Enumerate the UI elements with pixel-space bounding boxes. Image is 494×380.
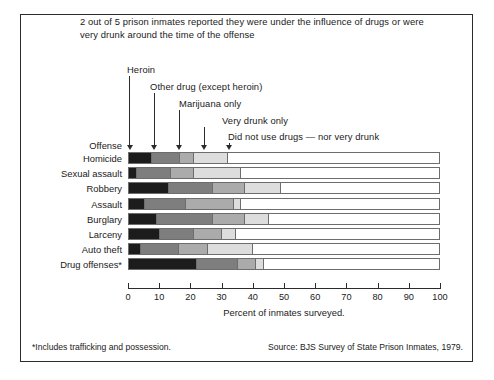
bar-row (128, 258, 440, 270)
bar-segment (180, 153, 194, 163)
callout-label-1: Heroin (127, 64, 155, 75)
category-label-homicide: Homicide (83, 153, 122, 164)
bar-segment (194, 153, 228, 163)
bar-segment (194, 229, 222, 239)
bar-segment (152, 153, 180, 163)
bar-segment (222, 229, 236, 239)
bar-segment (281, 183, 439, 193)
x-tick (128, 283, 129, 289)
bar-segment (129, 153, 152, 163)
x-tick (346, 283, 347, 289)
bar-segment (228, 153, 439, 163)
bar-segment (264, 259, 439, 269)
callout-arrowhead-2 (151, 145, 157, 150)
callout-label-4: Very drunk only (222, 115, 288, 126)
x-tick-label: 60 (310, 292, 320, 302)
category-label-robbery: Robbery (87, 183, 122, 194)
bar-segment (169, 183, 212, 193)
x-tick (222, 283, 223, 289)
x-tick-label: 10 (154, 292, 164, 302)
footnote-text: *Includes trafficking and possession. (32, 342, 171, 352)
x-tick-label: 40 (248, 292, 258, 302)
source-text: Source: BJS Survey of State Prison Inmat… (268, 342, 463, 352)
bar-segment (245, 183, 281, 193)
x-tick (159, 283, 160, 289)
bar-segment (245, 214, 268, 224)
category-label-sexual-assault: Sexual assault (61, 168, 122, 179)
callout-arrowhead-4 (201, 145, 207, 150)
bar-segment (194, 168, 241, 178)
bar-segment (179, 244, 208, 254)
callout-label-5: Did not use drugs — nor very drunk (228, 131, 379, 142)
x-tick (409, 283, 410, 289)
bar-segment (129, 259, 197, 269)
x-tick-label: 90 (404, 292, 414, 302)
category-label-assault: Assault (91, 199, 122, 210)
x-tick (378, 283, 379, 289)
bar-segment (145, 199, 187, 209)
x-tick-label: 80 (372, 292, 382, 302)
bar-segment (241, 199, 439, 209)
category-label-burglary: Burglary (87, 214, 122, 225)
callout-label-2: Other drug (except heroin) (150, 81, 262, 92)
bar-row (128, 228, 440, 240)
bar-row (128, 198, 440, 210)
x-axis-title: Percent of inmates surveyed. (128, 307, 440, 318)
x-tick (284, 283, 285, 289)
category-label-drug-offenses: Drug offenses* (60, 259, 122, 270)
chart-headline: 2 out of 5 prison inmates reported they … (80, 16, 430, 41)
x-tick-label: 100 (432, 292, 447, 302)
x-tick-label: 20 (185, 292, 195, 302)
bar-segment (253, 244, 439, 254)
bar-row (128, 167, 440, 179)
stacked-bar-plot (128, 152, 440, 284)
x-tick (253, 283, 254, 289)
x-tick-label: 50 (279, 292, 289, 302)
bar-segment (129, 229, 160, 239)
callout-arrowhead-5 (226, 145, 232, 150)
bar-segment (129, 214, 157, 224)
x-tick (440, 283, 441, 289)
bar-segment (197, 259, 237, 269)
callout-leader-line-2 (154, 93, 155, 145)
bar-segment (238, 259, 257, 269)
bar-segment (129, 199, 145, 209)
callout-leader-line-4 (204, 127, 205, 145)
bar-segment (129, 168, 137, 178)
bar-row (128, 182, 440, 194)
bar-segment (171, 168, 194, 178)
category-label-auto-theft: Auto theft (82, 244, 122, 255)
bar-segment (213, 183, 246, 193)
x-tick (315, 283, 316, 289)
callout-arrowhead-3 (176, 145, 182, 150)
bar-segment (160, 229, 194, 239)
bar-segment (256, 259, 264, 269)
bar-segment (236, 229, 439, 239)
callout-arrowhead-1 (127, 145, 133, 150)
x-tick-label: 0 (125, 292, 130, 302)
callout-label-3: Marijuana only (179, 98, 241, 109)
chart-page: 2 out of 5 prison inmates reported they … (0, 0, 494, 380)
bar-segment (269, 214, 440, 224)
bar-row (128, 152, 440, 164)
bar-segment (186, 199, 234, 209)
bar-segment (208, 244, 253, 254)
x-tick (190, 283, 191, 289)
x-tick-label: 30 (216, 292, 226, 302)
bar-segment (137, 168, 171, 178)
category-label-larceny: Larceny (89, 229, 122, 240)
bar-row (128, 213, 440, 225)
callout-leader-line-3 (179, 110, 180, 145)
bar-segment (157, 214, 213, 224)
callout-leader-line-1 (129, 76, 130, 145)
x-tick-label: 70 (341, 292, 351, 302)
bar-segment (241, 168, 439, 178)
bar-segment (129, 244, 141, 254)
bar-segment (129, 183, 169, 193)
offense-heading: Offense (89, 140, 122, 151)
bar-segment (213, 214, 246, 224)
bar-row (128, 243, 440, 255)
bar-segment (141, 244, 178, 254)
